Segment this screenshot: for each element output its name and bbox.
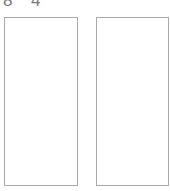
right-panel[interactable] <box>96 17 169 186</box>
left-panel[interactable] <box>4 17 78 186</box>
digit-label-right: 4 <box>31 0 40 11</box>
digit-label-left: 8 <box>3 0 12 11</box>
